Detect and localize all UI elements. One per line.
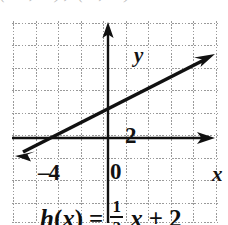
function-equation: h ( x ) = 1 2 x + 2 [40,199,182,225]
axes-and-line [12,21,219,223]
graph-figure: (-4, 0), (0, 2) [0,0,228,225]
equation-argument: x [62,206,75,225]
x-intercept-label: –4 [38,161,59,184]
top-cutoff-text: (-4, 0), (0, 2) [0,0,228,11]
y-axis-label: y [134,45,143,66]
y-axis [102,22,113,223]
y-intercept-label: 2 [125,124,137,147]
function-line [15,54,215,162]
equation-equals: = [89,206,103,225]
origin-label: 0 [110,160,122,183]
equation-variable: x [130,206,143,225]
equation-function-name: h [40,206,54,225]
equation-open-paren: ( [54,206,62,225]
x-axis-label: x [212,164,223,185]
equation-plus: + [149,206,163,225]
equation-close-paren: ) [75,206,83,225]
equation-intercept: 2 [169,206,182,225]
fraction-denominator: 2 [112,219,123,225]
coordinate-plane: y x –4 0 2 h ( x ) = 1 2 x + 2 [12,21,219,223]
slope-fraction: 1 2 [110,198,123,225]
fraction-numerator: 1 [112,198,123,215]
